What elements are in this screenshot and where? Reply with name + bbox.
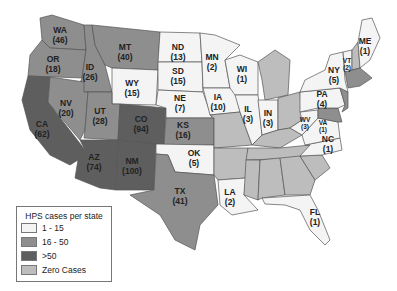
state-ny (300, 52, 348, 92)
map-legend: HPS cases per state 1 - 15 16 - 50 >50 Z… (16, 206, 112, 282)
label-mt: MT(40) (117, 42, 132, 62)
legend-swatch (21, 265, 37, 275)
label-ca: CA(62) (34, 119, 49, 139)
state-ar (214, 148, 248, 180)
label-nc: NC(1) (322, 134, 334, 154)
legend-swatch (21, 251, 37, 261)
label-ne: NE(7) (174, 93, 186, 113)
state-ms (244, 160, 260, 200)
state-new-england-south (345, 68, 372, 88)
label-id: ID(26) (82, 62, 97, 82)
legend-swatch (21, 237, 37, 247)
legend-title: HPS cases per state (17, 211, 111, 221)
legend-swatch (21, 223, 37, 233)
label-or: OR(18) (45, 54, 60, 74)
legend-item-zero: Zero Cases (21, 263, 111, 277)
label-ia: IA(10) (210, 92, 225, 112)
legend-item-gt50: >50 (21, 249, 111, 263)
legend-item-16-50: 16 - 50 (21, 235, 111, 249)
label-wv: WV(3) (300, 116, 310, 130)
label-co: CO(94) (133, 114, 148, 134)
label-me: ME(1) (359, 36, 372, 56)
label-mn: MN(2) (205, 52, 218, 72)
label-wi: WI(1) (237, 64, 247, 84)
legend-item-1-15: 1 - 15 (21, 221, 111, 235)
label-in: IN(3) (263, 108, 273, 128)
label-nm: NM(100) (122, 156, 142, 176)
label-ny: NY(5) (328, 65, 340, 85)
label-sd: SD(15) (170, 66, 185, 86)
label-pa: PA(4) (316, 89, 327, 109)
label-tx: TX(41) (172, 186, 187, 206)
label-nv: NV(20) (58, 98, 73, 118)
label-wy: WY(15) (124, 78, 139, 98)
label-ks: KS(16) (175, 120, 190, 140)
label-az: AZ(74) (86, 152, 101, 172)
label-nd: ND(13) (170, 42, 185, 62)
label-ok: OK(5) (188, 148, 201, 168)
label-il: IL(3) (243, 104, 253, 124)
state-mi (258, 50, 290, 100)
label-fl: FL(1) (310, 207, 320, 227)
label-vt: VT(2) (343, 57, 351, 71)
label-va: VA(1) (319, 119, 328, 133)
label-la: LA(2) (224, 187, 235, 207)
label-ut: UT(28) (92, 106, 107, 126)
label-wa: WA(46) (52, 25, 67, 45)
